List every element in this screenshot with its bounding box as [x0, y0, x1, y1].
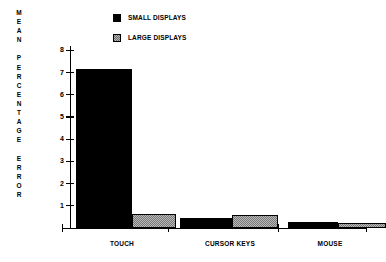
- bar-small-displays-cursor-keys: [180, 218, 232, 228]
- y-tick-4: [66, 139, 74, 140]
- x-tick-2: [278, 224, 279, 232]
- y-tick-label-6: 6: [52, 91, 64, 98]
- y-tick-7: [66, 72, 74, 73]
- y-tick-label-7: 7: [52, 69, 64, 76]
- x-group-label-cursor-keys: CURSOR KEYS: [205, 240, 255, 247]
- bar-large-displays-mouse: [338, 223, 386, 228]
- bar-large-displays-touch: [132, 214, 176, 228]
- y-tick-5: [66, 116, 74, 117]
- y-tick-label-2: 2: [52, 180, 64, 187]
- y-tick-8: [66, 50, 74, 51]
- y-tick-1: [66, 205, 74, 206]
- x-group-label-touch: TOUCH: [110, 240, 134, 247]
- bar-large-displays-cursor-keys: [232, 215, 278, 228]
- y-tick-label-1: 1: [52, 202, 64, 209]
- bar-small-displays-touch: [76, 69, 132, 228]
- x-group-label-mouse: MOUSE: [318, 240, 343, 247]
- y-axis-line: [70, 46, 71, 229]
- y-tick-label-3: 3: [52, 157, 64, 164]
- x-axis-line: [62, 228, 367, 229]
- bar-small-displays-mouse: [288, 222, 338, 228]
- y-tick-3: [66, 161, 74, 162]
- y-tick-label-5: 5: [52, 113, 64, 120]
- x-tick-0: [62, 224, 63, 232]
- y-tick-label-8: 8: [52, 46, 64, 53]
- y-tick-label-4: 4: [52, 135, 64, 142]
- y-tick-6: [66, 94, 74, 95]
- y-tick-2: [66, 183, 74, 184]
